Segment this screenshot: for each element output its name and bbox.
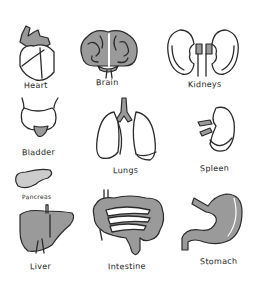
intestine-icon <box>90 190 168 260</box>
bladder-icon <box>18 98 63 138</box>
pancreas-icon <box>14 168 54 190</box>
heart-icon <box>10 20 55 80</box>
heart-label: Heart <box>24 81 48 90</box>
bladder-label: Bladder <box>22 148 55 158</box>
brain-icon <box>78 26 140 78</box>
pancreas-label: Pancreas <box>22 193 51 201</box>
brain-illustration <box>78 26 140 78</box>
liver-label: Liver <box>30 262 51 271</box>
intestine-label: Intestine <box>108 262 146 272</box>
spleen-label: Spleen <box>200 164 229 174</box>
lungs-icon <box>92 98 162 163</box>
pancreas-illustration <box>14 168 54 190</box>
kidneys-icon <box>166 26 241 81</box>
spleen-icon <box>196 104 241 154</box>
kidneys-illustration <box>166 26 241 81</box>
brain-label: Brain <box>96 78 119 87</box>
liver-icon <box>16 205 78 253</box>
spleen-illustration <box>196 104 241 154</box>
stomach-icon <box>180 192 245 254</box>
heart-illustration <box>10 20 55 80</box>
stomach-label: Stomach <box>200 257 238 267</box>
intestine-illustration <box>90 190 168 260</box>
liver-illustration <box>16 205 78 253</box>
stomach-illustration <box>180 192 245 254</box>
lungs-illustration <box>92 98 162 163</box>
bladder-illustration <box>18 98 63 138</box>
lungs-label: Lungs <box>113 166 138 175</box>
kidneys-label: Kidneys <box>188 80 222 90</box>
